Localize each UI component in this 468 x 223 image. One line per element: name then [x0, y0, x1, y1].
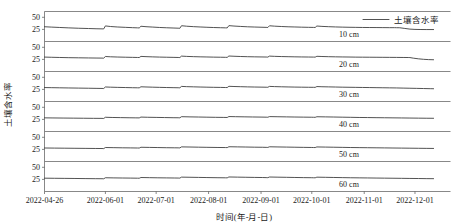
chart-canvas: 10 cm20 cm30 cm40 cm50 cm60 cm 255025502… [0, 0, 468, 223]
series-line-20-cm [45, 56, 434, 60]
x-tick-label: 2022-08-01 [190, 196, 227, 205]
y-tick-label: 25 [32, 115, 40, 124]
x-tick-label: 2022-07-01 [137, 196, 174, 205]
y-tick-label: 50 [32, 163, 40, 172]
panel-depth-label: 10 cm [339, 30, 360, 39]
panel-depth-label: 40 cm [339, 120, 360, 129]
chart-panel: 50 cm [45, 132, 451, 162]
panel-depth-label: 20 cm [339, 60, 360, 69]
series-line-50-cm [45, 147, 434, 149]
chart-panel: 40 cm [45, 102, 451, 132]
legend-label: 土壤含水率 [394, 15, 439, 25]
chart-panel: 20 cm [45, 42, 451, 72]
y-tick-label: 25 [32, 85, 40, 94]
y-tick-label: 50 [32, 43, 40, 52]
series-line-10-cm [45, 26, 434, 30]
y-tick-label: 50 [32, 133, 40, 142]
chart-legend: 土壤含水率 [363, 15, 439, 25]
x-axis-title: 时间(年-月-日) [216, 212, 272, 222]
series-line-30-cm [45, 86, 434, 88]
y-tick-label: 50 [32, 73, 40, 82]
x-tick-label: 2022-06-01 [87, 196, 124, 205]
y-tick-label: 25 [32, 175, 40, 184]
x-tick-label: 2022-09-01 [242, 196, 279, 205]
x-tick-label: 2022-04-26 [26, 196, 63, 205]
x-axis-ticks: 2022-04-262022-06-012022-07-012022-08-01… [26, 192, 434, 206]
series-line-60-cm [45, 177, 434, 179]
panel-depth-label: 60 cm [339, 180, 360, 189]
y-axis-ticks: 255025502550255025502550 [32, 13, 45, 184]
y-tick-label: 25 [32, 25, 40, 34]
chart-panel: 30 cm [45, 72, 451, 102]
x-tick-label: 2022-11-01 [346, 196, 383, 205]
soil-moisture-chart: 10 cm20 cm30 cm40 cm50 cm60 cm 255025502… [0, 0, 468, 223]
x-tick-label: 2022-10-01 [293, 196, 330, 205]
series-line-40-cm [45, 117, 434, 119]
y-tick-label: 25 [32, 145, 40, 154]
x-tick-label: 2022-12-01 [396, 196, 433, 205]
panel-depth-label: 50 cm [339, 150, 360, 159]
chart-panel: 10 cm [45, 12, 451, 42]
panel-depth-label: 30 cm [339, 90, 360, 99]
y-tick-label: 50 [32, 13, 40, 22]
y-tick-label: 25 [32, 55, 40, 64]
y-tick-label: 50 [32, 103, 40, 112]
chart-panel: 60 cm [45, 162, 451, 192]
panels-group: 10 cm20 cm30 cm40 cm50 cm60 cm [45, 12, 451, 192]
y-axis-title: 土壤含水率 [3, 82, 13, 127]
